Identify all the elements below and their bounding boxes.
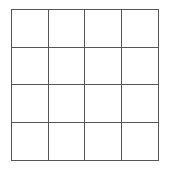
grid-cell[interactable] bbox=[122, 48, 159, 86]
grid-cell[interactable] bbox=[49, 85, 86, 123]
grid-cell[interactable] bbox=[122, 85, 159, 123]
grid-4x4 bbox=[11, 9, 159, 161]
grid-cell[interactable] bbox=[49, 48, 86, 86]
grid-cell[interactable] bbox=[85, 85, 122, 123]
grid-cell[interactable] bbox=[12, 48, 49, 86]
grid-cell[interactable] bbox=[49, 123, 86, 161]
grid-cell[interactable] bbox=[122, 123, 159, 161]
grid-cell[interactable] bbox=[12, 85, 49, 123]
grid-cell[interactable] bbox=[12, 123, 49, 161]
grid-cell[interactable] bbox=[85, 48, 122, 86]
grid-cell[interactable] bbox=[122, 10, 159, 48]
grid-cell[interactable] bbox=[85, 10, 122, 48]
grid-cell[interactable] bbox=[49, 10, 86, 48]
grid-cell[interactable] bbox=[85, 123, 122, 161]
grid-cell[interactable] bbox=[12, 10, 49, 48]
